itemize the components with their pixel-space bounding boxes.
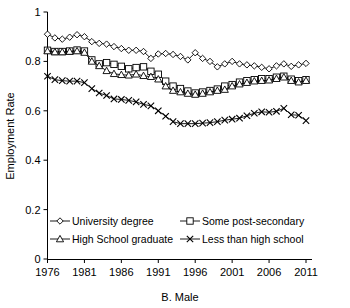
chart-figure: 00.20.40.60.81 1976198119861991199620012… <box>0 0 350 308</box>
data-point <box>81 34 87 40</box>
legend-item-less-than-high-school[interactable]: Less than high school <box>180 233 304 245</box>
data-point <box>170 118 176 124</box>
data-point <box>229 58 235 64</box>
data-point <box>214 64 220 70</box>
y-tick-label-0: 0 <box>34 253 40 265</box>
data-point <box>258 64 264 70</box>
y-tick-label-1: 0.2 <box>25 204 40 216</box>
series-high-school-graduate <box>44 47 310 97</box>
data-point <box>74 32 80 38</box>
data-point <box>118 63 124 69</box>
legend-item-university-degree[interactable]: University degree <box>50 215 154 227</box>
x-tick-label-6: 2006 <box>257 266 281 278</box>
series-line <box>48 51 307 94</box>
x-tick-label-7: 2011 <box>294 266 318 278</box>
legend-item-some-post-secondary[interactable]: Some post-secondary <box>180 215 305 227</box>
data-point <box>177 53 183 59</box>
x-axis-title: B. Male <box>161 291 198 303</box>
data-point <box>96 40 102 46</box>
data-point <box>288 63 294 69</box>
x-tick-label-0: 1976 <box>35 266 59 278</box>
data-point <box>281 105 287 111</box>
x-tick-label-4: 1996 <box>183 266 207 278</box>
data-point <box>110 70 117 76</box>
data-point <box>244 113 250 119</box>
data-point <box>251 63 257 69</box>
data-point <box>52 35 58 41</box>
data-point <box>66 34 72 40</box>
data-point <box>133 47 139 53</box>
y-tick-label-2: 0.4 <box>25 154 40 166</box>
data-point <box>59 36 65 42</box>
legend-label: University degree <box>72 215 154 227</box>
x-tick-label-2: 1986 <box>109 266 133 278</box>
data-point <box>244 62 250 68</box>
data-point <box>140 64 146 70</box>
legend-label: Less than high school <box>202 233 304 245</box>
data-point <box>295 62 301 68</box>
data-point <box>273 63 279 69</box>
data-point <box>170 51 176 57</box>
legend-item-high-school-graduate[interactable]: High School graduate <box>50 233 173 245</box>
data-point <box>111 43 117 49</box>
chart-legend: University degreeSome post-secondaryHigh… <box>50 215 305 245</box>
data-point <box>207 58 213 64</box>
data-point <box>103 92 109 98</box>
y-tick-label-5: 1 <box>34 6 40 18</box>
x-tick-label-5: 2001 <box>220 266 244 278</box>
data-point <box>155 108 161 114</box>
data-point <box>162 50 168 56</box>
y-axis-tick-labels: 00.20.40.60.81 <box>25 6 40 265</box>
data-point <box>222 61 228 67</box>
data-point <box>103 59 109 65</box>
legend-diamond-icon <box>57 218 63 224</box>
data-point <box>103 41 109 47</box>
data-point <box>103 67 110 73</box>
data-point <box>133 71 140 77</box>
employment-rate-line-chart: 00.20.40.60.81 1976198119861991199620012… <box>0 0 350 308</box>
data-point <box>118 45 124 51</box>
data-point <box>281 61 287 67</box>
y-tick-label-4: 0.8 <box>25 55 40 67</box>
data-point <box>162 113 168 119</box>
data-point <box>126 47 132 53</box>
x-tick-label-3: 1991 <box>146 266 170 278</box>
legend-label: Some post-secondary <box>202 215 305 227</box>
data-point <box>266 66 272 72</box>
data-point <box>111 61 117 67</box>
data-point <box>155 51 161 57</box>
data-point <box>303 60 309 66</box>
legend-label: High School graduate <box>72 233 173 245</box>
legend-square-icon <box>187 218 193 224</box>
data-point <box>96 90 102 96</box>
data-point <box>236 61 242 67</box>
y-tick-label-3: 0.6 <box>25 105 40 117</box>
x-axis-tick-labels: 19761981198619911996200120062011 <box>35 266 318 278</box>
data-point <box>44 31 50 37</box>
y-axis-title: Employment Rate <box>4 92 16 179</box>
data-point <box>89 38 95 44</box>
data-series-group <box>44 31 310 127</box>
x-tick-label-1: 1981 <box>72 266 96 278</box>
data-point <box>303 117 309 123</box>
data-point <box>89 85 95 91</box>
